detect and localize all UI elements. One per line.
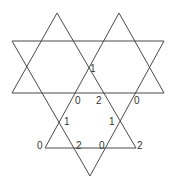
diagram-lines [12,13,164,176]
label-intersection: 1 [64,116,70,127]
label-intersection: 2 [76,140,82,151]
label-intersection: 2 [96,95,102,106]
line-upper-right-apex-left [45,13,119,148]
label-intersection: 0 [99,140,105,151]
diagram-labels: 1 0 2 0 1 1 0 2 0 2 [37,63,143,151]
line-upper-left-apex-right [57,13,136,148]
label-intersection: 2 [137,140,143,151]
label-intersection: 0 [134,95,140,106]
label-intersection: 1 [109,116,115,127]
label-intersection: 1 [90,63,96,74]
label-intersection: 0 [37,140,43,151]
line-down-right-edge [90,41,164,176]
line-down-left-edge [12,41,90,176]
label-intersection: 0 [75,95,81,106]
star-diagram: 1 0 2 0 1 1 0 2 0 2 [0,0,175,184]
